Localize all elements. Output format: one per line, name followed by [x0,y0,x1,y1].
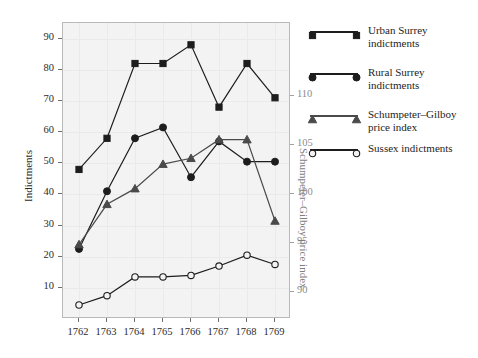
plot-area [62,22,290,318]
y2-axis-tick-mark [290,242,294,243]
legend-item[interactable]: Sussex indictments [306,142,453,156]
data-point [76,302,82,308]
legend-marker [307,27,318,45]
data-point [188,42,194,48]
y-axis-tick-label: 90 [0,31,54,42]
data-point [104,188,111,195]
y-axis-tick-mark [58,38,62,39]
legend-marker [351,111,362,129]
chart-figure: 102030405060708090 Indictments 909510010… [0,0,478,358]
data-point [272,158,279,165]
y-axis-tick-label: 80 [0,62,54,73]
y-axis-tick-mark [58,256,62,257]
y-axis-tick-mark [58,162,62,163]
y-axis-tick-mark [58,225,62,226]
legend-label: Schumpeter–Gilboyprice index [368,108,457,133]
y-axis-left-title: Indictments [22,150,34,202]
legend-label-line: Schumpeter–Gilboy [368,108,457,121]
x-axis-tick-label: 1769 [258,326,290,337]
data-point [272,95,278,101]
legend-label-line: indictments [368,37,428,50]
data-point [160,274,166,280]
legend-item[interactable]: Urban Surreyindictments [306,24,428,49]
x-axis-tick-mark [218,318,219,322]
legend-marker [307,69,318,87]
y-axis-tick-label: 70 [0,93,54,104]
data-point [160,124,167,131]
data-point [76,166,82,172]
legend-marker [351,27,362,45]
data-point [132,135,139,142]
legend-marker [351,145,362,163]
legend-label-line: Rural Surrey [368,66,425,79]
data-point [132,60,138,66]
data-point [188,272,194,278]
x-axis-tick-mark [274,318,275,322]
data-point [132,274,138,280]
legend-label: Rural Surreyindictments [368,66,425,91]
data-point [244,60,250,66]
legend-label-line: Sussex indictments [368,142,453,155]
y-axis-tick-label: 10 [0,280,54,291]
legend-item[interactable]: Rural Surreyindictments [306,66,425,91]
data-point [187,154,195,161]
y-axis-tick-label: 60 [0,124,54,135]
y2-axis-tick-mark [290,144,294,145]
y-axis-tick-mark [58,193,62,194]
legend-marker [307,111,318,129]
x-axis-tick-mark [106,318,107,322]
x-axis-tick-mark [190,318,191,322]
data-point [103,200,111,207]
legend-item[interactable]: Schumpeter–Gilboyprice index [306,108,457,133]
y-axis-tick-mark [58,100,62,101]
x-axis-tick-mark [78,318,79,322]
legend-key [306,110,362,122]
legend-key [306,68,362,80]
x-axis-tick-mark [162,318,163,322]
y-axis-tick-mark [58,287,62,288]
legend-marker [351,69,362,87]
data-point [160,60,166,66]
y-axis-tick-label: 30 [0,218,54,229]
data-point [216,263,222,269]
data-point [244,158,251,165]
data-point [104,292,110,298]
y-axis-tick-label: 20 [0,249,54,260]
y-axis-right-title: Schumpeter–Gilboy price index [298,148,310,289]
x-axis-tick-mark [134,318,135,322]
data-point [272,261,278,267]
data-point [188,174,195,181]
legend-label: Sussex indictments [368,142,453,155]
legend-label-line: Urban Surrey [368,24,428,37]
legend-key [306,144,362,156]
data-point [271,217,279,224]
data-point [244,252,250,258]
series-layer [63,23,290,318]
legend-label-line: indictments [368,79,425,92]
legend-key [306,26,362,38]
data-point [216,104,222,110]
legend-label: Urban Surreyindictments [368,24,428,49]
y2-axis-tick-mark [290,291,294,292]
legend-label-line: price index [368,121,457,134]
data-point [104,135,110,141]
y-axis-tick-mark [58,69,62,70]
legend-marker [307,145,318,163]
series-4 [76,252,278,308]
x-axis-tick-mark [246,318,247,322]
y-axis-tick-mark [58,131,62,132]
y2-axis-tick-mark [290,95,294,96]
y2-axis-tick-mark [290,193,294,194]
